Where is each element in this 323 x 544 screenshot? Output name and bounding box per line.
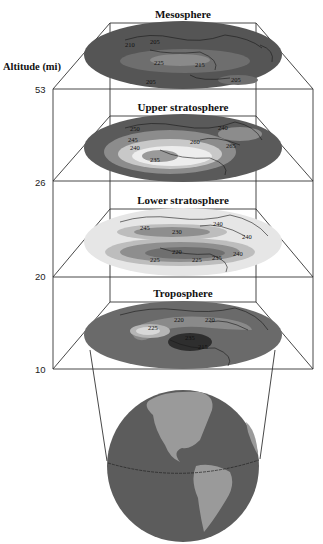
contour-label: 245 [140, 224, 150, 231]
layer-plate-upper-stratosphere: 250 245 240 235 260 240 265 [53, 114, 313, 182]
contour-label: 240 [218, 124, 228, 131]
contour-label: 220 [172, 248, 182, 255]
contour-label: 220 [174, 316, 184, 323]
contour-label: 245 [128, 136, 138, 143]
layer-title-upper-stratosphere: Upper stratosphere [138, 101, 229, 113]
contour-label: 210 [125, 41, 135, 48]
layer-plate-mesosphere: 210 205 225 215 205 205 [53, 21, 313, 89]
contour-label: 225 [192, 256, 202, 263]
axis-title: Altitude (mi) [3, 61, 62, 73]
contour-label: 225 [150, 256, 160, 263]
tick-20: 20 [35, 271, 46, 282]
contour-label: 240 [242, 233, 252, 240]
contour-label: 205 [146, 78, 156, 85]
contour-label: 235 [150, 156, 160, 163]
contour-label: 225 [148, 324, 158, 331]
contour-label: 265 [226, 142, 236, 149]
contour-label: 220 [205, 316, 215, 323]
contour-label: 205 [150, 38, 160, 45]
contour-label: 250 [130, 125, 140, 132]
contour-label: 240 [233, 250, 243, 257]
contour-label: 235 [185, 334, 195, 341]
layer-title-lower-stratosphere: Lower stratosphere [137, 194, 229, 206]
contour-label: 205 [231, 76, 241, 83]
contour-label: 225 [154, 59, 164, 66]
contour-label: 260 [190, 138, 200, 145]
atmosphere-layers-diagram: Altitude (mi) 53 26 20 10 210 205 225 21… [0, 0, 323, 544]
contour-label: 215 [198, 343, 208, 350]
earth-globe [107, 390, 259, 542]
contour-label: 240 [130, 144, 140, 151]
contour-label: 240 [213, 220, 223, 227]
contour-label: 235 [212, 254, 222, 261]
layer-title-troposphere: Troposphere [153, 287, 212, 299]
layer-title-mesosphere: Mesosphere [155, 8, 211, 20]
tick-10: 10 [35, 364, 46, 375]
temp-band [142, 150, 178, 162]
projection-line-right [260, 350, 275, 459]
projection-line-left [90, 350, 107, 461]
contour-label: 230 [172, 228, 182, 235]
layer-plate-lower-stratosphere: 240 245 230 240 225 220 225 235 240 [53, 208, 313, 277]
contour-label: 215 [195, 61, 205, 68]
tick-53: 53 [35, 84, 46, 95]
tick-26: 26 [35, 177, 46, 188]
